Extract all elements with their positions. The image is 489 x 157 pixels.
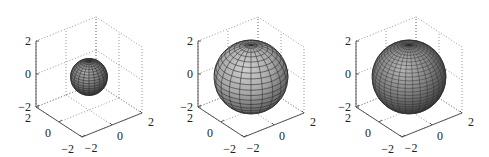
x-tick-label: −2 (85, 141, 98, 155)
z-tick-label: 2 (187, 34, 193, 48)
x-tick-label: 2 (310, 115, 316, 129)
y-tick (221, 120, 224, 122)
y-tick (379, 120, 382, 122)
sphere-surface (372, 40, 446, 114)
y-tick-label: 0 (365, 126, 371, 140)
z-tick-label: 2 (345, 34, 351, 48)
z-tick-label: 2 (25, 34, 31, 48)
x-tick (80, 135, 82, 137)
x-tick (242, 135, 244, 137)
subplot-2: 2 0 −2 2 0 −2 −2 0 2 (180, 17, 316, 156)
x-tick-label: −2 (405, 141, 418, 155)
z-tick-label: 0 (187, 67, 193, 81)
y-tick-label: −2 (381, 142, 394, 156)
x-tick-label: 0 (117, 129, 123, 143)
y-tick-label: 2 (25, 111, 31, 125)
x-tick-label: 2 (148, 115, 154, 129)
subplot-3: 2 0 −2 2 0 −2 −2 0 2 (338, 17, 474, 156)
x-tick (110, 123, 112, 125)
x-tick-label: 2 (468, 115, 474, 129)
x-tick (140, 111, 142, 113)
y-tick-label: 0 (207, 126, 213, 140)
x-tick-label: −2 (247, 141, 260, 155)
z-tick-label: 0 (25, 67, 31, 81)
x-tick-label: 0 (437, 129, 443, 143)
sphere-surface (71, 59, 108, 96)
y-tick-label: 2 (345, 111, 351, 125)
y-tick (59, 120, 62, 122)
y-tick-label: −2 (61, 142, 74, 156)
y-tick-label: 2 (187, 111, 193, 125)
grid-line (96, 17, 142, 47)
x-tick (272, 123, 274, 125)
sphere-surface (214, 40, 288, 114)
x-tick-label: 0 (279, 129, 285, 143)
x-tick (430, 123, 432, 125)
y-tick-label: −2 (223, 142, 236, 156)
x-tick (302, 111, 304, 113)
x-tick (400, 135, 402, 137)
z-tick-label: 0 (345, 67, 351, 81)
x-tick (460, 111, 462, 113)
y-tick-label: 0 (45, 126, 51, 140)
grid-line (66, 95, 112, 125)
figure: 2 0 −2 2 0 −2 −2 0 2 2 0 −2 2 0 −2 −2 0 … (0, 0, 489, 157)
subplot-1: 2 0 −2 2 0 −2 −2 0 2 (18, 17, 154, 156)
